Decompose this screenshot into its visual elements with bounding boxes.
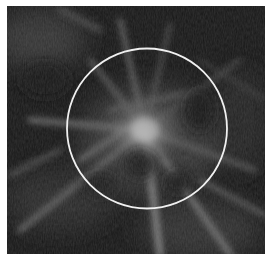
mammogram-render [7, 6, 265, 254]
mammogram-image [7, 6, 265, 254]
